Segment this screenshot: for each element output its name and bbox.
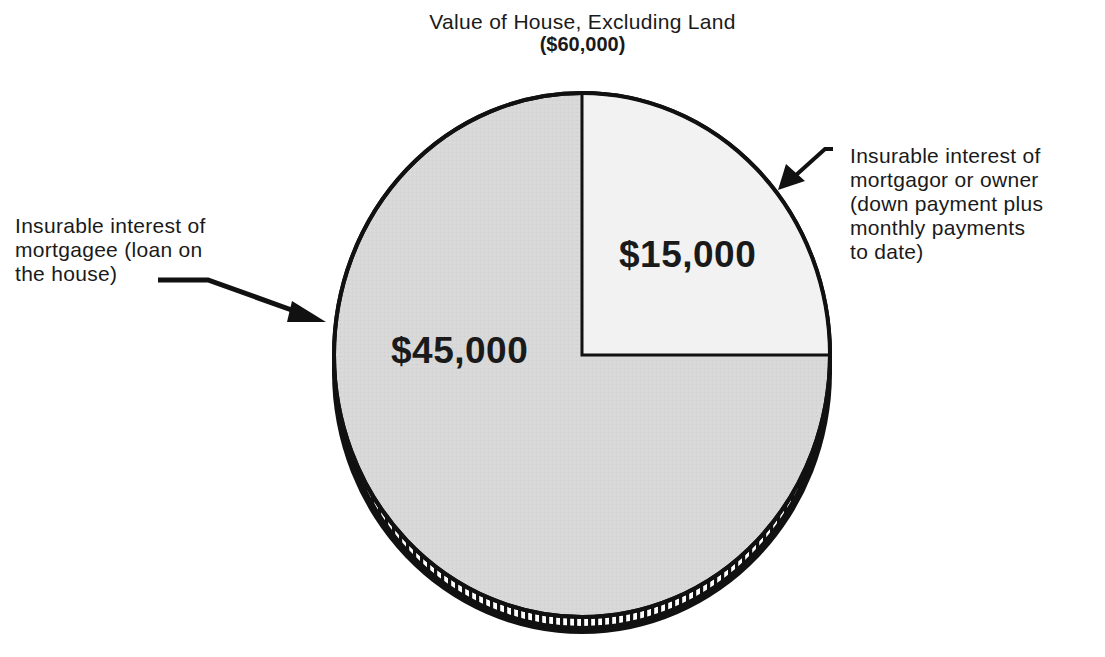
callout-line: Insurable interest of — [15, 214, 315, 238]
callout-line: (down payment plus — [850, 192, 1100, 216]
callout-mortgagee: Insurable interest of mortgagee (loan on… — [15, 214, 315, 286]
arrow-mortgagee — [158, 280, 326, 322]
arrow-owner — [778, 149, 833, 190]
callout-line: mortgagee (loan on — [15, 238, 315, 262]
callout-line: to date) — [850, 240, 1100, 264]
slice-owner — [582, 93, 830, 355]
pie-chart — [0, 0, 1105, 657]
slice-label-mortgagee: $45,000 — [391, 330, 528, 372]
callout-line: the house) — [15, 262, 315, 286]
callout-line: mortgagor or owner — [850, 168, 1100, 192]
callout-line: Insurable interest of — [850, 144, 1100, 168]
callout-owner: Insurable interest of mortgagor or owner… — [850, 144, 1100, 264]
slice-label-owner: $15,000 — [619, 234, 756, 276]
callout-line: monthly payments — [850, 216, 1100, 240]
